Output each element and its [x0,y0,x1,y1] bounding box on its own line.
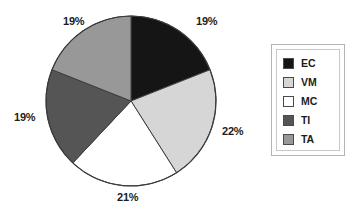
slice-percent-label-ti: 19% [14,112,35,123]
slice-percent-label-ec: 19% [196,16,217,27]
legend-item-ti[interactable]: TI [283,111,339,130]
legend-label-ec: EC [301,58,315,69]
legend-swatch-icon-ec [283,58,294,69]
legend-label-ta: TA [301,134,314,145]
pie-chart-figure: 19% 22% 21% 19% 19% EC VM MC TI [0,0,353,216]
slice-percent-label-vm: 22% [222,126,243,137]
legend-item-mc[interactable]: MC [283,92,339,111]
slice-percent-label-ta: 19% [63,16,84,27]
legend-swatch-icon-vm [283,77,294,88]
chart-legend-inner: EC VM MC TI TA [276,49,340,151]
legend-swatch-icon-ti [283,115,294,126]
legend-item-ec[interactable]: EC [283,54,339,73]
legend-item-ta[interactable]: TA [283,130,339,149]
pie-chart-svg [0,0,250,216]
legend-item-vm[interactable]: VM [283,73,339,92]
pie-chart-plot-area: 19% 22% 21% 19% 19% [0,0,250,216]
legend-swatch-icon-mc [283,96,294,107]
legend-swatch-icon-ta [283,134,294,145]
legend-label-mc: MC [301,96,317,107]
slice-percent-label-mc: 21% [117,192,138,203]
legend-label-vm: VM [301,77,317,88]
legend-label-ti: TI [301,115,310,126]
chart-legend: EC VM MC TI TA [271,44,345,156]
